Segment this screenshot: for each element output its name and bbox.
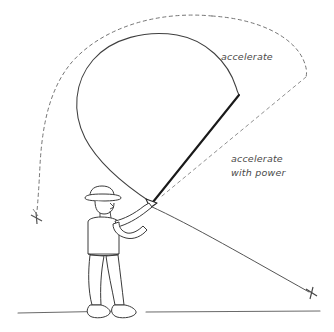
label-accelerate-with-power-line1: accelerate bbox=[231, 152, 286, 166]
label-accelerate-with-power: accelerate with power bbox=[231, 152, 286, 180]
shoe-front bbox=[112, 305, 137, 318]
power-path bbox=[150, 206, 309, 292]
arrowhead-left bbox=[31, 209, 42, 224]
kite-flyer-person bbox=[85, 186, 152, 318]
arrowhead-right bbox=[306, 287, 317, 299]
dashed-trajectory-left bbox=[37, 15, 212, 211]
label-accelerate-with-power-line2: with power bbox=[231, 166, 286, 180]
shoe-back bbox=[87, 305, 110, 318]
kite bbox=[153, 95, 239, 202]
leg-back bbox=[89, 255, 104, 305]
hat-icon bbox=[85, 186, 121, 201]
ground-line bbox=[18, 311, 320, 313]
kite-diagram: accelerate accelerate with power bbox=[0, 0, 334, 332]
leg-front bbox=[106, 255, 124, 305]
torso bbox=[88, 217, 119, 256]
arm-back bbox=[115, 203, 152, 227]
label-accelerate: accelerate bbox=[221, 50, 273, 64]
wind-window-arc bbox=[77, 34, 239, 203]
head bbox=[95, 201, 114, 214]
